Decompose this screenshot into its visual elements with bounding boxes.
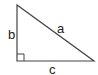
right-angle-marker [17, 54, 24, 61]
label-c: c [49, 62, 56, 75]
triangle [17, 5, 94, 61]
right-triangle-diagram: b a c [0, 0, 98, 75]
label-b: b [8, 27, 15, 42]
label-a: a [57, 21, 65, 36]
